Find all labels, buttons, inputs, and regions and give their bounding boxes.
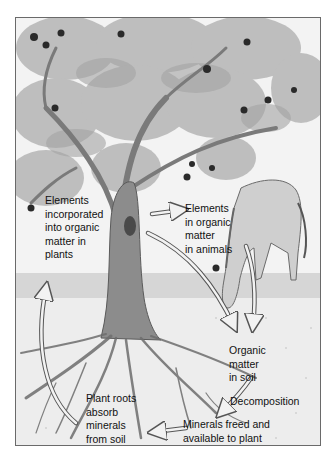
- label-elements-in-animals: Elements in organic matter in animals: [185, 202, 232, 256]
- trunk-knot: [124, 216, 136, 236]
- label-minerals-freed: Minerals freed and available to plant: [183, 418, 270, 445]
- diagram-frame: Elements incorporated into organic matte…: [15, 17, 321, 446]
- label-organic-matter-in-soil: Organic matter in soil: [229, 344, 266, 385]
- label-elements-in-plants: Elements incorporated into organic matte…: [45, 194, 103, 262]
- label-decomposition: Decomposition: [230, 395, 299, 409]
- label-plant-roots-absorb: Plant roots absorb minerals from soil: [86, 392, 136, 446]
